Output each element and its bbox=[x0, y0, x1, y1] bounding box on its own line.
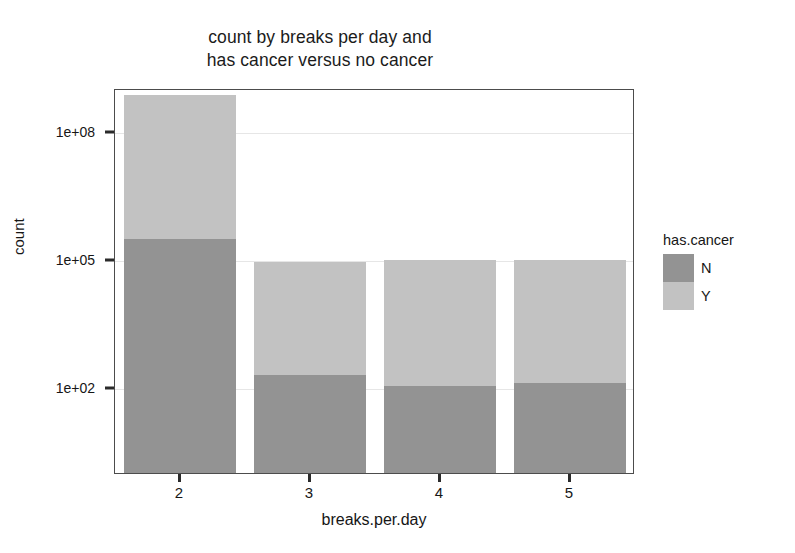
bar-group-5[interactable] bbox=[514, 89, 626, 473]
legend: has.cancer NY bbox=[663, 232, 734, 310]
x-tick-label: 2 bbox=[159, 484, 199, 501]
bar-group-3[interactable] bbox=[254, 89, 366, 473]
x-axis-title: breaks.per.day bbox=[114, 511, 634, 529]
bar-segment-5-N[interactable] bbox=[514, 383, 626, 473]
bar-group-4[interactable] bbox=[384, 89, 496, 473]
y-tick-label: 1e+02 bbox=[29, 380, 95, 396]
legend-item-Y[interactable]: Y bbox=[663, 282, 734, 310]
y-tick-label: 1e+05 bbox=[29, 252, 95, 268]
bar-segment-2-N[interactable] bbox=[124, 239, 236, 473]
chart-title-line-2: has cancer versus no cancer bbox=[120, 49, 520, 72]
legend-items: NY bbox=[663, 254, 734, 310]
x-tick-label: 3 bbox=[289, 484, 329, 501]
x-tick-mark bbox=[438, 474, 441, 482]
bar-segment-4-Y[interactable] bbox=[384, 260, 496, 385]
legend-swatch-N bbox=[663, 254, 694, 282]
chart-title-line-1: count by breaks per day and bbox=[120, 26, 520, 49]
bar-segment-2-Y[interactable] bbox=[124, 95, 236, 239]
bar-segment-3-N[interactable] bbox=[254, 375, 366, 473]
y-axis-title: count bbox=[10, 218, 27, 255]
bar-segment-4-N[interactable] bbox=[384, 386, 496, 473]
x-tick-mark bbox=[308, 474, 311, 482]
y-tick-label: 1e+08 bbox=[29, 124, 95, 140]
y-tick-mark bbox=[105, 259, 114, 262]
legend-label-Y: Y bbox=[701, 288, 711, 304]
x-tick-label: 5 bbox=[549, 484, 589, 501]
legend-swatch-Y bbox=[663, 282, 694, 310]
bar-segment-3-Y[interactable] bbox=[254, 262, 366, 374]
chart-title: count by breaks per day and has cancer v… bbox=[120, 26, 520, 72]
y-tick-mark bbox=[105, 387, 114, 390]
x-tick-label: 4 bbox=[419, 484, 459, 501]
barchart-figure: count by breaks per day and has cancer v… bbox=[0, 0, 795, 553]
bar-segment-5-Y[interactable] bbox=[514, 260, 626, 383]
plot-panel bbox=[114, 89, 634, 474]
x-tick-mark bbox=[568, 474, 571, 482]
y-tick-mark bbox=[105, 130, 114, 133]
legend-item-N[interactable]: N bbox=[663, 254, 734, 282]
legend-title: has.cancer bbox=[663, 232, 734, 248]
legend-label-N: N bbox=[701, 260, 711, 276]
x-tick-mark bbox=[178, 474, 181, 482]
bar-group-2[interactable] bbox=[124, 89, 236, 473]
